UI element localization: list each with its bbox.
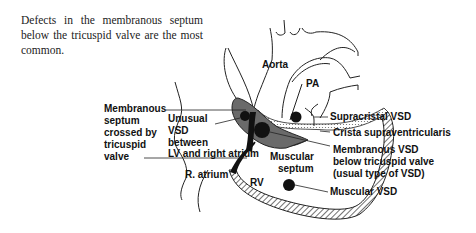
svg-text:VSD: VSD xyxy=(168,125,189,136)
label-membranous-septum: Membranous septum crossed by tricuspid v… xyxy=(104,103,167,162)
svg-text:Membranous: Membranous xyxy=(104,103,167,114)
svg-text:below tricuspid valve: below tricuspid valve xyxy=(333,156,435,167)
label-crista-supraventricularis: Crista supraventricularis xyxy=(333,127,451,138)
label-muscular-vsd: Muscular VSD xyxy=(330,186,397,197)
membranous-vsd-dot xyxy=(254,122,270,138)
label-r-atrium: R. atrium xyxy=(185,169,228,180)
supracristal-vsd-dot xyxy=(291,112,302,123)
unusual-vsd-dot xyxy=(240,111,250,121)
label-pa: PA xyxy=(306,78,319,89)
svg-text:septum: septum xyxy=(278,163,314,174)
label-rv: RV xyxy=(250,177,264,188)
svg-text:Membranous VSD: Membranous VSD xyxy=(333,144,419,155)
label-supracristal-vsd: Supracristal VSD xyxy=(330,111,411,122)
svg-text:tricuspid: tricuspid xyxy=(104,139,146,150)
label-aorta: Aorta xyxy=(262,59,289,70)
label-membranous-vsd: Membranous VSD below tricuspid valve (us… xyxy=(333,144,435,179)
svg-text:septum: septum xyxy=(104,115,140,126)
membranous-septum-region xyxy=(232,98,308,148)
svg-text:(usual type of VSD): (usual type of VSD) xyxy=(333,168,425,179)
svg-text:crossed by: crossed by xyxy=(104,127,157,138)
svg-text:LV and right atrium: LV and right atrium xyxy=(168,148,259,159)
muscular-vsd-dot xyxy=(283,179,295,191)
svg-text:valve: valve xyxy=(104,151,129,162)
svg-text:Muscular: Muscular xyxy=(270,151,314,162)
svg-text:Unusual: Unusual xyxy=(168,113,208,124)
label-muscular-septum: Muscular septum xyxy=(270,151,314,174)
svg-text:between: between xyxy=(168,137,208,148)
vsd-heart-diagram: Aorta PA Membranous septum crossed by tr… xyxy=(0,0,476,233)
